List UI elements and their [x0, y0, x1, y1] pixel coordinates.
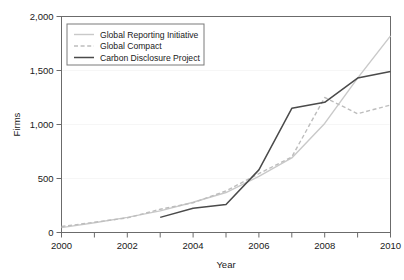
- legend-label-1: Global Compact: [100, 41, 162, 51]
- legend-label-2: Carbon Disclosure Project: [100, 53, 200, 63]
- x-tick-label: 2010: [380, 240, 401, 251]
- x-axis-title: Year: [216, 259, 235, 270]
- series-line-2: [160, 72, 390, 218]
- series-line-1: [62, 98, 391, 227]
- y-tick-label: 2,000: [30, 11, 54, 22]
- line-chart: 200020022004200620082010 05001,0001,5002…: [0, 0, 404, 280]
- x-tick-label: 2004: [183, 240, 204, 251]
- y-axis-ticks: [57, 17, 62, 233]
- x-tick-label: 2002: [117, 240, 138, 251]
- y-tick-label: 1,000: [30, 119, 54, 130]
- x-axis-tick-labels: 200020022004200620082010: [51, 240, 401, 251]
- y-tick-label: 1,500: [30, 65, 54, 76]
- y-tick-label: 500: [38, 173, 54, 184]
- y-axis-title: Firms: [11, 112, 22, 136]
- y-axis-tick-labels: 05001,0001,5002,000: [30, 11, 54, 238]
- x-tick-label: 2008: [314, 240, 335, 251]
- x-tick-label: 2000: [51, 240, 72, 251]
- x-axis-ticks: [62, 233, 391, 238]
- chart-container: 200020022004200620082010 05001,0001,5002…: [0, 0, 404, 280]
- y-tick-label: 0: [48, 227, 53, 238]
- chart-legend: Global Reporting InitiativeGlobal Compac…: [67, 24, 204, 65]
- legend-label-0: Global Reporting Initiative: [100, 30, 199, 40]
- x-tick-label: 2006: [248, 240, 269, 251]
